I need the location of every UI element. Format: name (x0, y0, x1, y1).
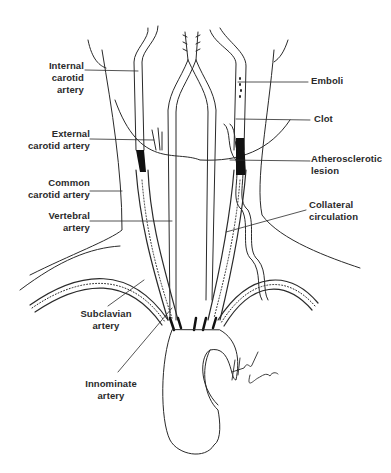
arch-root-lesions (170, 318, 216, 330)
label-text: Collateral (309, 199, 358, 211)
label-vertebral-artery: Vertebral artery (18, 210, 90, 234)
label-text: lesion (311, 165, 382, 177)
trachea-branch-top (185, 32, 198, 60)
label-text: Common (18, 177, 90, 189)
label-text: circulation (309, 211, 358, 223)
label-text: artery (80, 390, 142, 402)
label-emboli: Emboli (311, 75, 343, 87)
label-text: Emboli (311, 75, 343, 87)
label-external-carotid-artery: External carotid artery (18, 128, 90, 152)
label-text: carotid artery (18, 189, 90, 201)
label-common-carotid-artery: Common carotid artery (18, 177, 90, 201)
label-text: External (18, 128, 90, 140)
signature (232, 352, 278, 383)
emboli-dots (240, 78, 241, 97)
label-atherosclerotic-lesion: Atherosclerotic lesion (311, 153, 382, 177)
label-internal-carotid-artery: Internal carotid artery (28, 60, 84, 96)
label-text: Internal (28, 60, 84, 72)
label-text: Subclavian (76, 308, 136, 320)
label-text: carotid artery (18, 140, 90, 152)
label-innominate-artery: Innominate artery (80, 378, 142, 402)
aortic-arch (163, 330, 238, 454)
label-subclavian-artery: Subclavian artery (76, 308, 136, 332)
label-clot: Clot (314, 113, 333, 125)
internal-carotid-left (134, 28, 148, 150)
label-text: Atherosclerotic (311, 153, 382, 165)
label-text: artery (18, 222, 90, 234)
neck-outline-left (88, 40, 106, 68)
label-text: Vertebral (18, 210, 90, 222)
label-text: Clot (314, 113, 333, 125)
label-collateral-circulation: Collateral circulation (309, 199, 358, 223)
label-text: artery (76, 320, 136, 332)
label-text: Innominate (80, 378, 142, 390)
lesion-left (136, 150, 146, 172)
common-carotid-left (136, 170, 168, 320)
label-text: carotid artery (28, 72, 84, 96)
neck-outline-right (274, 40, 288, 62)
diagram-canvas: Internal carotid artery External carotid… (0, 0, 391, 473)
internal-carotid-right (210, 30, 236, 150)
